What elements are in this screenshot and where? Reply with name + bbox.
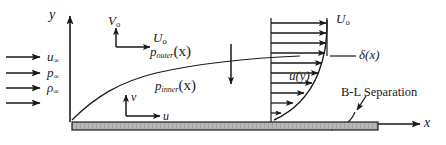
velocity-reference-vectors [116,28,150,47]
diagram-canvas [0,0,446,145]
boundary-layer-figure: y x u∞ p∞ ρ∞ Vo Uo v u pouter(x) pinner(… [0,0,446,145]
freestream-u-subscript: ∞ [54,56,60,65]
pressure-inner-subscript: inner [162,85,179,94]
velocity-profile-label: u(y) [289,69,310,82]
reference-v-base: V [108,13,116,28]
local-coordinate-label-v: v [131,91,136,103]
y-axis-label: y [49,8,55,22]
pressure-inner-argument: (x) [179,77,197,93]
pressure-outer-label: pouter(x) [150,44,191,60]
edge-velocity-label: Uo [336,12,350,26]
freestream-rho-subscript: ∞ [53,87,59,96]
pressure-inner-label: pinner(x) [155,78,196,94]
reference-u-base: U [153,30,162,45]
edge-velocity-subscript: o [345,17,349,27]
freestream-label-u-infinity: u∞ [47,50,59,65]
freestream-p-subscript: ∞ [54,72,60,81]
local-coordinate-label-u: u [163,110,169,122]
reference-v-subscript: o [116,19,120,29]
freestream-arrows [6,57,40,103]
freestream-label-rho-infinity: ρ∞ [47,81,59,96]
delta-argument: (x) [365,47,379,62]
freestream-label-p-infinity: p∞ [47,66,59,81]
separation-label: B-L Separation [341,86,417,99]
pressure-outer-subscript: outer [157,51,174,60]
velocity-profile-argument: (y) [296,68,310,83]
edge-velocity-base: U [336,11,345,26]
x-axis-label: x [424,116,430,130]
delta-label: δ(x) [359,48,379,61]
reference-vector-label-v0: Vo [108,14,120,28]
flat-plate [72,122,378,130]
pressure-outer-argument: (x) [174,43,192,59]
